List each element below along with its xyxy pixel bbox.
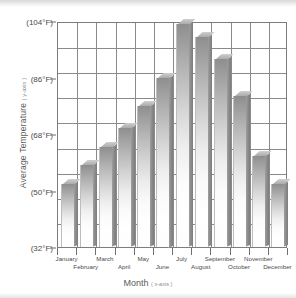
bar[interactable] — [137, 106, 149, 247]
x-axis-tick-label: April — [118, 263, 130, 270]
y-axis-title-text: Average Temperature — [18, 103, 28, 188]
bar-front-face — [214, 59, 227, 247]
bar-front-face — [195, 37, 208, 247]
y-axis-tick-mark — [50, 191, 56, 192]
y-axis-tick-mark — [50, 22, 56, 23]
bar[interactable] — [176, 24, 188, 247]
x-axis-tick-label: September — [205, 255, 235, 262]
x-axis-tick-label: July — [176, 255, 187, 262]
bar[interactable] — [195, 37, 207, 247]
x-axis-tick-label: February — [73, 263, 98, 270]
gridline-horizontal — [58, 48, 286, 49]
gridline-vertical — [173, 23, 174, 247]
x-axis-tick-mark — [230, 248, 231, 255]
y-axis-tick-label: (32°F) — [0, 244, 53, 253]
x-axis-tick-label: June — [156, 263, 169, 270]
bar[interactable] — [61, 184, 73, 247]
x-axis-tick-mark — [268, 248, 269, 255]
bar-front-face — [176, 24, 189, 247]
y-axis-tick-label: (68°F) — [0, 131, 53, 140]
x-axis-tick-label: November — [244, 255, 273, 262]
x-axis-title-note: ( x-axis ) — [151, 281, 172, 287]
bar[interactable] — [80, 165, 92, 247]
bar-front-face — [233, 96, 246, 247]
x-axis-tick-labels: JanuaryFebruaryMarchAprilMayJuneJulyAugu… — [57, 248, 287, 278]
x-axis-tick-mark — [172, 248, 173, 255]
x-axis-tick-mark — [210, 248, 211, 255]
bar[interactable] — [156, 78, 168, 248]
bar-front-face — [61, 184, 74, 247]
x-axis-tick-mark — [287, 248, 288, 255]
bar-front-face — [80, 165, 93, 247]
bar-front-face — [118, 128, 131, 247]
x-axis-tick-label: March — [96, 255, 113, 262]
plot-area — [57, 22, 287, 248]
y-axis-tick-mark — [50, 135, 56, 136]
bar[interactable] — [214, 59, 226, 247]
bar-front-face — [252, 156, 265, 247]
bar[interactable] — [233, 96, 245, 247]
x-axis-tick-label: January — [56, 255, 78, 262]
x-axis-tick-mark — [153, 248, 154, 255]
x-axis-tick-mark — [191, 248, 192, 255]
x-axis-tick-mark — [115, 248, 116, 255]
bar-chart: Average Temperature ( y-axis ) (104°F)(8… — [0, 0, 296, 298]
x-axis-tick-label: December — [263, 263, 292, 270]
x-axis-tick-mark — [134, 248, 135, 255]
bar-front-face — [156, 78, 169, 248]
y-axis-tick-label: (50°F) — [0, 187, 53, 196]
x-axis-tick-mark — [95, 248, 96, 255]
y-axis-tick-mark — [50, 78, 56, 79]
y-axis-tick-label: (104°F) — [0, 18, 53, 27]
x-axis-tick-label: October — [228, 263, 250, 270]
bar-front-face — [99, 147, 112, 247]
x-axis-tick-mark — [57, 248, 58, 255]
bar-front-face — [137, 106, 150, 247]
y-axis-tick-mark — [50, 248, 56, 249]
bar-front-face — [271, 184, 284, 247]
bar[interactable] — [252, 156, 264, 247]
x-axis-tick-mark — [249, 248, 250, 255]
x-axis-title-text: Month — [124, 278, 149, 288]
bar[interactable] — [118, 128, 130, 247]
bar[interactable] — [99, 147, 111, 247]
x-axis-tick-mark — [76, 248, 77, 255]
x-axis-title: Month ( x-axis ) — [0, 278, 296, 288]
x-axis-tick-label: May — [137, 255, 149, 262]
y-axis-tick-label: (86°F) — [0, 74, 53, 83]
bar[interactable] — [271, 184, 283, 247]
x-axis-tick-label: August — [191, 263, 210, 270]
